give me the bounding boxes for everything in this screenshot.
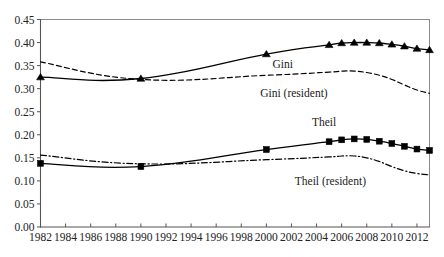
data-point-marker	[326, 139, 332, 145]
series-line	[41, 139, 430, 168]
y-axis-ticks: 0.000.050.100.150.200.250.300.350.400.45	[14, 14, 40, 234]
data-point-marker	[138, 164, 144, 170]
data-point-marker	[351, 136, 357, 142]
x-tick-label: 2008	[355, 231, 378, 243]
y-tick-label: 0.35	[14, 60, 34, 72]
x-tick-label: 1998	[230, 231, 253, 243]
x-tick-label: 2006	[330, 231, 353, 243]
data-point-marker	[339, 137, 345, 143]
data-point-marker	[364, 136, 370, 142]
x-tick-label: 1994	[180, 231, 203, 243]
series-label: Gini	[272, 58, 292, 70]
series-line	[41, 62, 430, 93]
x-tick-label: 2010	[380, 231, 403, 243]
y-tick-label: 0.30	[14, 83, 34, 95]
series-label: Theil	[312, 116, 336, 128]
x-tick-label: 1986	[79, 231, 102, 243]
series-label: Theil (resident)	[295, 175, 366, 188]
x-tick-label: 1982	[29, 231, 52, 243]
data-point-marker	[427, 148, 433, 154]
data-point-marker	[414, 146, 420, 152]
y-tick-label: 0.15	[14, 152, 34, 164]
series-paths	[41, 42, 430, 174]
x-tick-label: 2002	[280, 231, 303, 243]
series-line	[41, 155, 430, 175]
series-markers	[37, 39, 434, 170]
chart-figure: 0.000.050.100.150.200.250.300.350.400.45…	[0, 0, 444, 257]
data-point-marker	[389, 141, 395, 147]
data-point-marker	[38, 160, 44, 166]
y-tick-label: 0.40	[14, 37, 34, 49]
series-labels: GiniGini (resident)TheilTheil (resident)	[260, 58, 366, 188]
y-tick-label: 0.45	[14, 14, 34, 26]
y-tick-label: 0.05	[14, 198, 34, 210]
data-point-marker	[263, 147, 269, 153]
x-tick-label: 1992	[154, 231, 177, 243]
x-tick-label: 1990	[129, 231, 152, 243]
x-tick-label: 2000	[255, 231, 278, 243]
x-tick-label: 2004	[305, 231, 328, 243]
line-chart: 0.000.050.100.150.200.250.300.350.400.45…	[0, 0, 444, 257]
y-tick-label: 0.20	[14, 129, 34, 141]
x-tick-label: 1988	[104, 231, 127, 243]
data-point-marker	[402, 143, 408, 149]
y-tick-label: 0.10	[14, 175, 34, 187]
x-tick-label: 2012	[405, 231, 428, 243]
y-tick-label: 0.25	[14, 106, 34, 118]
series-label: Gini (resident)	[260, 87, 328, 100]
data-point-marker	[376, 138, 382, 144]
x-axis-ticks: 1982198419861988199019921994199619982000…	[29, 224, 429, 244]
x-tick-label: 1984	[54, 231, 77, 243]
chart-frame	[40, 19, 430, 228]
x-tick-label: 1996	[205, 231, 228, 243]
